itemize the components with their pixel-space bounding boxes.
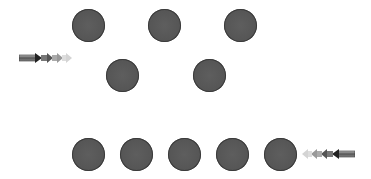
- dot-top-2: [148, 9, 181, 42]
- diagram-canvas: Arrangement of dark gray circles in thre…: [0, 0, 371, 179]
- dot-middle-2: [193, 59, 226, 92]
- dot-top-1: [72, 9, 105, 42]
- dot-bottom-2: [120, 138, 153, 171]
- arrow-left-icon: [301, 148, 355, 160]
- dot-middle-1: [106, 59, 139, 92]
- dot-bottom-1: [72, 138, 105, 171]
- dot-bottom-5: [264, 138, 297, 171]
- dot-bottom-3: [168, 138, 201, 171]
- dot-bottom-4: [216, 138, 249, 171]
- arrow-right-icon: [19, 52, 73, 64]
- dot-top-3: [224, 9, 257, 42]
